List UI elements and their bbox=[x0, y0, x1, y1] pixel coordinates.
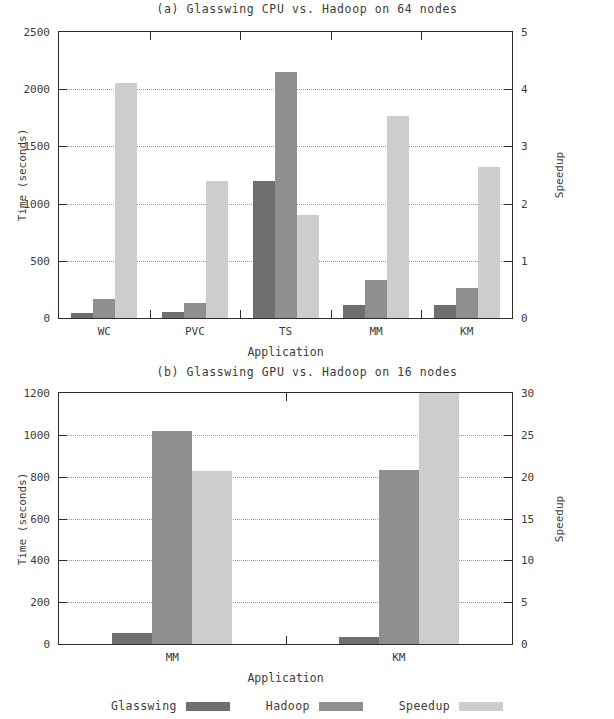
chart-a-title: (a) Glasswing CPU vs. Hadoop on 64 nodes bbox=[0, 2, 614, 16]
bar-km-hadoop bbox=[456, 288, 478, 318]
bar-ts-speedup bbox=[297, 215, 319, 318]
y2-axis-tick bbox=[504, 89, 512, 90]
y-axis-tick-label: 2000 bbox=[24, 83, 51, 96]
bar-pvc-hadoop bbox=[184, 303, 206, 318]
legend-swatch-hadoop bbox=[319, 702, 363, 711]
y2-axis-tick-label: 2 bbox=[521, 197, 528, 210]
y-axis-tick bbox=[59, 519, 67, 520]
y2-axis-tick bbox=[504, 519, 512, 520]
chart-a-x-axis-title: Application bbox=[247, 345, 323, 359]
bar-km-glasswing bbox=[434, 305, 456, 318]
bar-mm-speedup bbox=[387, 116, 409, 318]
bar-mm-glasswing bbox=[343, 305, 365, 318]
y-axis-tick bbox=[59, 477, 67, 478]
y-axis-tick-label: 800 bbox=[30, 470, 50, 483]
chart-b-plot-area: 020040060080010001200051015202530MMKM bbox=[58, 392, 513, 645]
y-axis-tick bbox=[59, 204, 67, 205]
x-axis-separator-tick bbox=[421, 310, 422, 318]
chart-a-y2-axis-title: Speedup bbox=[553, 152, 566, 198]
x-axis-tick-label: KM bbox=[392, 651, 405, 664]
x-axis-tick-label: TS bbox=[279, 325, 292, 338]
bar-km-speedup bbox=[419, 393, 459, 644]
legend-label-glasswing: Glasswing bbox=[111, 699, 177, 713]
y-axis-tick-label: 0 bbox=[43, 638, 50, 651]
bar-mm-speedup bbox=[192, 471, 232, 644]
y2-axis-tick bbox=[504, 477, 512, 478]
bar-wc-glasswing bbox=[71, 313, 93, 318]
y-axis-tick-label: 1200 bbox=[24, 387, 51, 400]
y-axis-tick-label: 2500 bbox=[24, 26, 51, 39]
legend-swatch-glasswing bbox=[186, 702, 230, 711]
x-axis-separator-tick bbox=[240, 32, 241, 40]
y2-axis-tick-label: 5 bbox=[521, 596, 528, 609]
y2-axis-tick-label: 1 bbox=[521, 254, 528, 267]
y-axis-tick-label: 1000 bbox=[24, 428, 51, 441]
bar-km-speedup bbox=[478, 167, 500, 318]
bar-ts-hadoop bbox=[275, 72, 297, 318]
x-axis-separator-tick bbox=[150, 310, 151, 318]
x-axis-tick-label: MM bbox=[369, 325, 382, 338]
y-axis-tick-label: 1500 bbox=[24, 140, 51, 153]
chart-b-title: (b) Glasswing GPU vs. Hadoop on 16 nodes bbox=[0, 365, 614, 379]
bar-mm-hadoop bbox=[365, 280, 387, 318]
legend-label-speedup: Speedup bbox=[399, 699, 450, 713]
x-axis-separator-tick bbox=[150, 32, 151, 40]
y2-axis-tick-label: 3 bbox=[521, 140, 528, 153]
bar-km-hadoop bbox=[379, 470, 419, 644]
y-axis-tick-label: 0 bbox=[43, 312, 50, 325]
x-axis-tick-label: WC bbox=[98, 325, 111, 338]
bar-pvc-glasswing bbox=[162, 312, 184, 318]
bar-ts-glasswing bbox=[253, 181, 275, 318]
chart-b-x-axis-title: Application bbox=[247, 671, 323, 685]
y2-axis-tick-label: 10 bbox=[521, 554, 534, 567]
legend-item-glasswing: Glasswing bbox=[111, 699, 230, 713]
chart-panel-a: (a) Glasswing CPU vs. Hadoop on 64 nodes… bbox=[0, 0, 614, 360]
y2-axis-tick bbox=[504, 261, 512, 262]
y-axis-tick bbox=[59, 261, 67, 262]
x-axis-separator-tick bbox=[240, 310, 241, 318]
y-axis-tick bbox=[59, 146, 67, 147]
y2-axis-tick-label: 0 bbox=[521, 638, 528, 651]
bar-wc-hadoop bbox=[93, 299, 115, 318]
y2-axis-tick bbox=[504, 560, 512, 561]
chart-a-plot-area: 05001000150020002500012345WCPVCTSMMKM bbox=[58, 31, 513, 319]
y2-axis-tick-label: 15 bbox=[521, 512, 534, 525]
x-axis-separator-tick bbox=[331, 32, 332, 40]
y-axis-tick bbox=[59, 89, 67, 90]
y-axis-tick-label: 400 bbox=[30, 554, 50, 567]
bar-pvc-speedup bbox=[206, 181, 228, 318]
legend-label-hadoop: Hadoop bbox=[266, 699, 310, 713]
x-axis-tick-label: MM bbox=[166, 651, 179, 664]
y2-axis-tick bbox=[504, 435, 512, 436]
x-axis-separator-tick bbox=[286, 636, 287, 644]
y-axis-tick-label: 500 bbox=[30, 254, 50, 267]
y-axis-tick-label: 600 bbox=[30, 512, 50, 525]
y2-axis-tick-label: 0 bbox=[521, 312, 528, 325]
bar-mm-glasswing bbox=[112, 633, 152, 645]
y-axis-tick bbox=[59, 602, 67, 603]
y-axis-tick bbox=[59, 560, 67, 561]
bar-wc-speedup bbox=[115, 83, 137, 318]
x-axis-tick-label: KM bbox=[460, 325, 473, 338]
x-axis-separator-tick bbox=[421, 32, 422, 40]
legend-swatch-speedup bbox=[459, 702, 503, 711]
x-axis-separator-tick bbox=[286, 393, 287, 401]
y2-axis-tick-label: 5 bbox=[521, 26, 528, 39]
chart-b-y2-axis-title: Speedup bbox=[553, 495, 566, 541]
y2-axis-tick bbox=[504, 204, 512, 205]
chart-legend: GlasswingHadoopSpeedup bbox=[0, 699, 614, 713]
bar-mm-hadoop bbox=[152, 431, 192, 644]
legend-item-hadoop: Hadoop bbox=[266, 699, 363, 713]
y2-axis-tick-label: 20 bbox=[521, 470, 534, 483]
y-axis-tick bbox=[59, 435, 67, 436]
legend-item-speedup: Speedup bbox=[399, 699, 503, 713]
x-axis-tick-label: PVC bbox=[185, 325, 205, 338]
x-axis-separator-tick bbox=[331, 310, 332, 318]
chart-panel-b: (b) Glasswing GPU vs. Hadoop on 16 nodes… bbox=[0, 360, 614, 690]
y2-axis-tick-label: 30 bbox=[521, 387, 534, 400]
y-axis-tick-label: 1000 bbox=[24, 197, 51, 210]
y-axis-tick-label: 200 bbox=[30, 596, 50, 609]
chart-b-y-axis-title: Time (seconds) bbox=[16, 472, 29, 565]
y2-axis-tick-label: 4 bbox=[521, 83, 528, 96]
y2-axis-tick bbox=[504, 602, 512, 603]
